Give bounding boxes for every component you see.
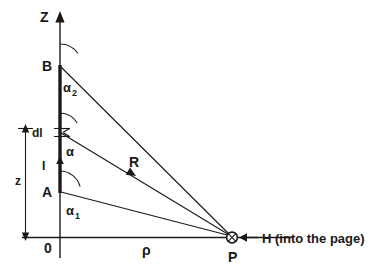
h-field-arrow bbox=[239, 233, 258, 242]
h-field-label: H (into the page) bbox=[262, 231, 365, 246]
ray-dl-to-p bbox=[61, 133, 231, 236]
point-label-a: A bbox=[42, 184, 52, 200]
angle-label-alpha1: α 1 bbox=[66, 203, 80, 221]
ray-group bbox=[61, 67, 231, 236]
alpha2-subscript: 2 bbox=[72, 88, 77, 98]
diagram-canvas: Z 0 ρ B A P α 2 α α bbox=[0, 0, 379, 276]
angle-label-alpha: α bbox=[66, 144, 74, 159]
origin-label: 0 bbox=[44, 240, 52, 256]
r-vector-label: R bbox=[129, 154, 139, 170]
current-arrow-up-icon bbox=[56, 156, 64, 164]
alpha1-subscript: 1 bbox=[75, 211, 80, 221]
alpha1-symbol: α bbox=[66, 203, 74, 218]
dl-element-marker bbox=[54, 129, 70, 137]
point-label-b: B bbox=[42, 58, 52, 74]
angle-label-alpha2: α 2 bbox=[63, 80, 77, 98]
circled-cross-icon bbox=[227, 232, 238, 243]
point-label-p: P bbox=[228, 249, 237, 265]
angle-arc-alpha2 bbox=[60, 44, 78, 53]
ray-b-to-p bbox=[61, 67, 231, 236]
alpha2-symbol: α bbox=[63, 80, 71, 95]
arrow-left-icon bbox=[239, 233, 247, 242]
z-axis-label: Z bbox=[40, 9, 49, 25]
ray-a-to-p bbox=[61, 192, 231, 236]
physics-diagram: Z 0 ρ B A P α 2 α α bbox=[0, 0, 379, 276]
current-label: I bbox=[42, 159, 45, 173]
dl-label: dl bbox=[32, 126, 43, 140]
angle-arc-alpha bbox=[60, 113, 77, 123]
arrow-up-icon bbox=[55, 11, 64, 23]
z-dimension-arrow-down-icon bbox=[22, 233, 29, 242]
rho-axis-label: ρ bbox=[142, 242, 151, 258]
z-dimension-label: z bbox=[15, 174, 21, 188]
angle-arc-alpha1 bbox=[60, 171, 80, 187]
